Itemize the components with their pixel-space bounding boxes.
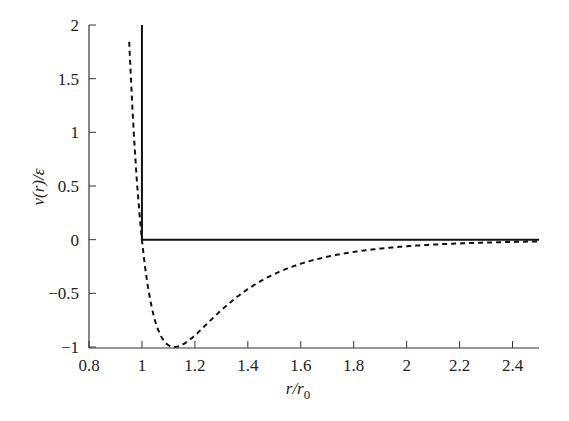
x-tick-label: 1.4 xyxy=(237,356,259,375)
x-tick-label: 1 xyxy=(138,356,147,375)
y-tick-label: 1 xyxy=(71,123,80,142)
lennard-jones-curve xyxy=(129,42,538,347)
hard-sphere-line xyxy=(142,25,539,240)
x-tick-label: 2.4 xyxy=(502,356,524,375)
x-tick-label: 0.8 xyxy=(78,356,99,375)
y-tick-label: 0.5 xyxy=(58,177,79,196)
x-axis-title: r/r0 xyxy=(286,379,310,402)
x-tick-label: 1.8 xyxy=(343,356,364,375)
y-tick-label: −0.5 xyxy=(48,284,79,303)
y-axis-title: v(r)/ε xyxy=(29,168,48,205)
plot-area xyxy=(129,25,539,347)
axes xyxy=(89,25,539,348)
x-tick-label: 1.6 xyxy=(290,356,311,375)
potential-chart: 0.811.21.41.61.822.22.4 −1−0.500.511.52 … xyxy=(0,0,569,421)
y-tick-label: 0 xyxy=(71,231,80,250)
x-tick-label: 2.2 xyxy=(449,356,470,375)
x-axis-ticks: 0.811.21.41.61.822.22.4 xyxy=(78,341,523,375)
y-tick-label: 1.5 xyxy=(58,70,79,89)
x-tick-label: 2 xyxy=(402,356,411,375)
y-tick-label: −1 xyxy=(61,338,79,357)
x-tick-label: 1.2 xyxy=(184,356,205,375)
y-tick-label: 2 xyxy=(71,16,80,35)
